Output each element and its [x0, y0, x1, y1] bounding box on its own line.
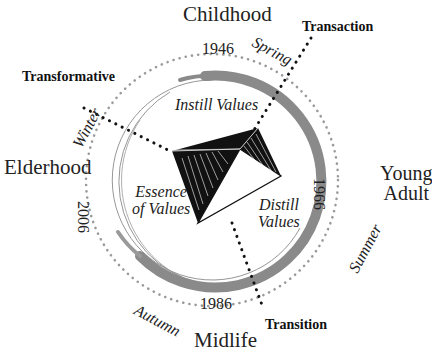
stage-elderhood: Elderhood	[4, 157, 91, 178]
year-2006: 2006	[75, 201, 91, 233]
value-instill: Instill Values	[175, 96, 258, 113]
value-distill: Distill Values	[258, 196, 300, 230]
stage-midlife: Midlife	[194, 330, 257, 351]
mode-transition: Transition	[265, 318, 327, 332]
year-1946: 1946	[202, 41, 234, 57]
leader-transition	[232, 223, 262, 305]
value-essence-line2: of Values	[132, 200, 190, 217]
value-distill-line2: Values	[258, 213, 300, 230]
year-1986: 1986	[200, 296, 232, 312]
stage-young-adult-line2: Adult	[380, 183, 432, 203]
stage-young-adult-line1: Young	[380, 163, 432, 183]
year-1966: 1966	[311, 178, 327, 210]
value-essence: Essence of Values	[132, 183, 190, 217]
stage-childhood: Childhood	[183, 4, 272, 25]
mode-transformative: Transformative	[22, 70, 115, 84]
stage-young-adult: Young Adult	[380, 163, 432, 203]
value-distill-line1: Distill	[258, 196, 300, 213]
mode-transaction: Transaction	[302, 20, 373, 34]
value-essence-line1: Essence	[132, 183, 190, 200]
